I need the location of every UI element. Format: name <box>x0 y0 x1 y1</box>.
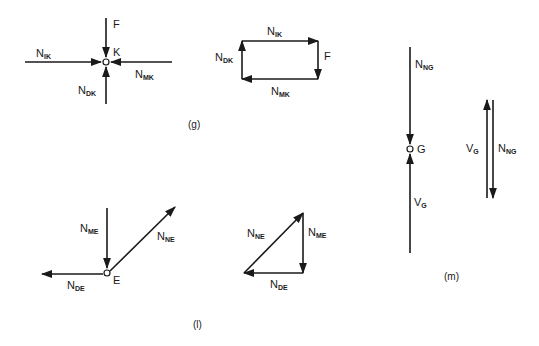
node-e <box>104 270 110 276</box>
label-node-e: E <box>113 274 120 286</box>
panel-g-force-polygon: NIK F NMK NDK <box>215 25 331 98</box>
label-n-ik: NIK <box>36 47 51 60</box>
label-n-de: NDE <box>67 279 85 292</box>
panel-g-free-body: F K NIK NMK NDK <box>25 18 172 104</box>
label-n-dk: NDK <box>78 84 96 97</box>
caption-l: (l) <box>193 319 202 330</box>
label-poly-n-ik: NIK <box>267 25 282 38</box>
label-n-ne: NNE <box>157 230 175 243</box>
polygon-side-n-ne <box>244 213 303 273</box>
label-poly-v-g: VG <box>466 142 479 155</box>
label-v-g: VG <box>414 196 427 209</box>
caption-m: (m) <box>444 271 459 282</box>
label-poly-n-mk: NMK <box>271 85 290 98</box>
label-poly-n-ne: NNE <box>247 227 265 240</box>
node-g <box>407 146 413 152</box>
label-poly-n-me: NME <box>308 226 327 239</box>
label-poly-n-dk: NDK <box>215 51 233 64</box>
label-n-ng: NNG <box>415 58 434 71</box>
label-f: F <box>113 18 120 30</box>
panel-l-free-body: NME NNE NDE E <box>42 207 175 292</box>
label-poly-n-ng: NNG <box>498 142 517 155</box>
label-poly-n-de: NDE <box>270 278 288 291</box>
panel-l-force-polygon: NNE NME NDE <box>244 213 327 291</box>
label-n-mk: NMK <box>135 68 154 81</box>
label-node-g: G <box>417 143 426 155</box>
caption-g: (g) <box>188 119 200 130</box>
label-n-me: NME <box>80 222 99 235</box>
panel-m-free-body: NNG G VG <box>407 47 434 253</box>
panel-m-force-polygon: VG NNG <box>466 100 517 198</box>
label-poly-f: F <box>324 50 331 62</box>
label-node-k: K <box>113 46 121 58</box>
force-diagram: F K NIK NMK NDK NIK F NMK NDK (g) NME NN… <box>0 0 539 346</box>
node-k <box>103 59 109 65</box>
